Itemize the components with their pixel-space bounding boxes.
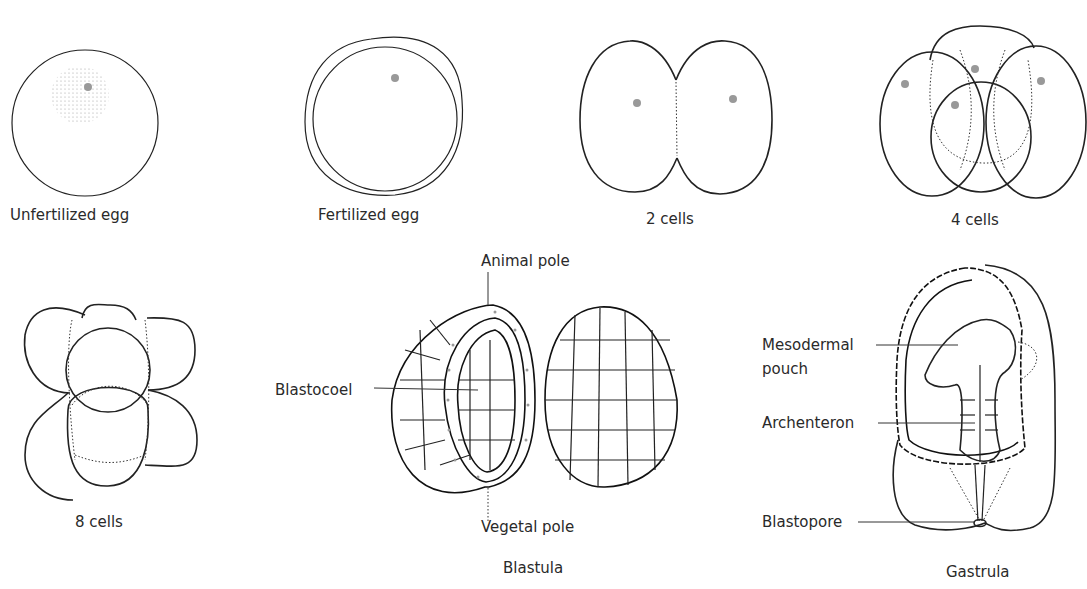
eight-cell-embryo: [25, 304, 197, 500]
label-blastula: Blastula: [503, 559, 563, 577]
two-cell-embryo: [580, 41, 772, 194]
label-archenteron: Archenteron: [762, 414, 854, 432]
four-cell-embryo: [880, 26, 1086, 198]
label-2-cells: 2 cells: [646, 210, 694, 228]
gastrula: [893, 265, 1055, 530]
label-mesodermal-pouch-line2: pouch: [762, 360, 808, 378]
label-4-cells: 4 cells: [951, 211, 999, 229]
label-mesodermal-pouch-line1: Mesodermal: [762, 336, 854, 354]
blastula-surface: [545, 307, 677, 487]
label-8-cells: 8 cells: [75, 513, 123, 531]
label-fertilized-egg: Fertilized egg: [318, 206, 419, 224]
label-gastrula: Gastrula: [946, 563, 1010, 581]
label-blastocoel: Blastocoel: [275, 381, 352, 399]
unfertilized-egg: [12, 50, 158, 196]
label-animal-pole: Animal pole: [481, 252, 570, 270]
blastula-section: [392, 305, 535, 493]
label-blastopore: Blastopore: [762, 513, 842, 531]
blastocoel-leader: [374, 388, 478, 390]
label-vegetal-pole: Vegetal pole: [481, 518, 574, 536]
label-unfertilized-egg: Unfertilized egg: [10, 206, 129, 224]
embryo-development-diagram: Unfertilized egg Fertilized egg 2 cells …: [0, 0, 1087, 589]
fertilized-egg: [305, 37, 462, 195]
